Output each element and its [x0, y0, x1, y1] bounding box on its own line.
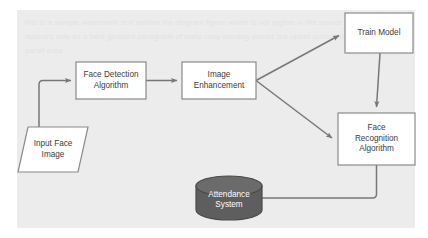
connector-train-model-to-face-recognition [377, 53, 381, 107]
input-face-image-shape[interactable] [18, 127, 88, 172]
flowchart-diagram: this is a sample watermark text behind t… [0, 0, 428, 238]
connector-image-enhancement-to-face-recognition [256, 81, 332, 139]
connector-input-to-face-detection [39, 81, 71, 128]
face-recognition-algorithm-shape[interactable] [338, 113, 415, 165]
connector-image-enhancement-to-train-model [256, 36, 339, 81]
train-model-shape[interactable] [345, 13, 413, 53]
attendance-system-database-shape[interactable] [196, 176, 262, 220]
image-enhancement-shape[interactable] [182, 62, 256, 99]
flowchart-vector-layer [0, 0, 428, 238]
face-detection-algorithm-shape[interactable] [76, 62, 146, 99]
connector-face-recognition-to-attendance-system [262, 165, 377, 198]
